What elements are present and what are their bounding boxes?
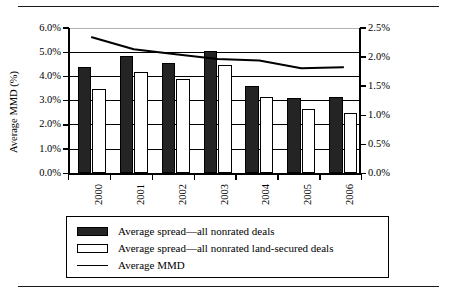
x-axis-tick-label: 2004 xyxy=(261,184,272,205)
x-axis-tick xyxy=(361,174,362,180)
top-rule xyxy=(18,6,439,7)
x-axis-tick-label: 2000 xyxy=(94,184,105,205)
left-axis-title: Average MMD (%) xyxy=(9,71,20,153)
right-axis-line xyxy=(359,28,361,175)
dark-bar-swatch xyxy=(77,227,108,236)
average-mmd-line xyxy=(68,28,361,175)
legend-item: Average spread—all nonrated deals xyxy=(67,223,388,240)
left-axis-tick-label: 6.0% xyxy=(39,23,61,34)
left-axis-tick-label: 0.0% xyxy=(39,168,61,179)
light-bar-swatch xyxy=(77,244,108,253)
legend-item: Average spread—all nonrated land-secured… xyxy=(67,240,388,257)
x-axis-tick-label: 2005 xyxy=(303,184,314,205)
left-axis-tick-label: 1.0% xyxy=(39,144,61,155)
chart-area: Average MMD (%) Spreads (percentage poin… xyxy=(0,12,457,212)
right-axis-tick-label: 2.5% xyxy=(368,23,390,34)
right-axis-tick-label: 0.5% xyxy=(368,139,390,150)
right-axis-tick-label: 1.5% xyxy=(368,81,390,92)
legend-item: Average MMD xyxy=(67,257,388,274)
left-axis-tick-label: 5.0% xyxy=(39,47,61,58)
right-axis-tick-label: 1.0% xyxy=(368,110,390,121)
x-axis-tick-label: 2001 xyxy=(136,184,147,205)
bottom-rule xyxy=(18,286,439,287)
x-axis-tick-label: 2003 xyxy=(220,184,231,205)
chart-legend: Average spread—all nonrated dealsAverage… xyxy=(66,216,389,278)
left-axis-tick-label: 4.0% xyxy=(39,71,61,82)
right-axis-tick-label: 2.0% xyxy=(368,52,390,63)
figure: Average MMD (%) Spreads (percentage poin… xyxy=(0,0,457,298)
legend-item-label: Average MMD xyxy=(118,260,185,271)
left-axis-tick-label: 3.0% xyxy=(39,95,61,106)
left-axis-line xyxy=(68,28,70,175)
legend-item-label: Average spread—all nonrated land-secured… xyxy=(118,243,333,254)
plot-area: 0.0%1.0%2.0%3.0%4.0%5.0%6.0% 0.0%0.5%1.0… xyxy=(68,28,361,175)
line-swatch xyxy=(77,265,108,267)
right-axis-tick-label: 0.0% xyxy=(368,168,390,179)
x-axis-tick-label: 2006 xyxy=(345,184,356,205)
legend-item-label: Average spread—all nonrated deals xyxy=(118,226,274,237)
bottom-axis-line xyxy=(68,173,361,175)
x-axis-tick-label: 2002 xyxy=(178,184,189,205)
left-axis-tick-label: 2.0% xyxy=(39,119,61,130)
